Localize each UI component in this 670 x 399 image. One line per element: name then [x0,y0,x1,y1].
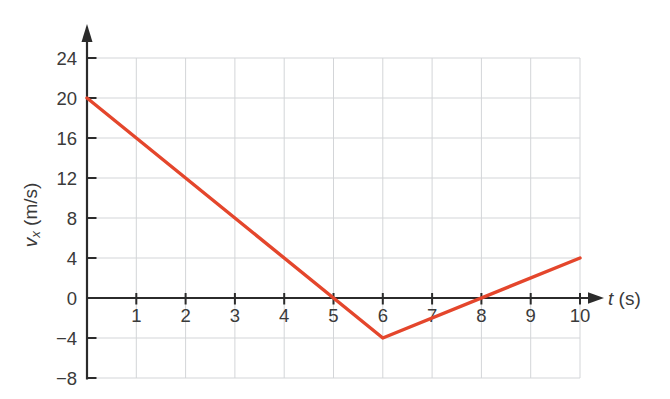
x-axis-title: t (s) [608,289,641,308]
y-axis-arrowhead [82,24,93,42]
x-tick-label: 4 [279,305,289,326]
y-tick-label: 20 [56,88,77,109]
y-axis-variable: v [20,238,41,248]
chart-canvas: 24201612840−4−812345678910 [0,0,670,399]
y-tick-label: 12 [56,168,77,189]
y-tick-label: 4 [67,248,77,269]
x-tick-label: 1 [131,305,141,326]
y-tick-label: 8 [67,208,77,229]
x-axis-arrowhead [588,292,604,304]
y-tick-label: 0 [67,288,77,309]
x-axis-unit: (s) [613,288,640,309]
x-tick-label: 10 [570,305,591,326]
velocity-time-graph: 24201612840−4−812345678910 vx (m/s) t (s… [0,0,670,399]
y-axis-unit: (m/s) [20,183,41,232]
x-tick-label: 8 [476,305,486,326]
x-tick-label: 3 [230,305,240,326]
y-tick-label: −8 [56,368,77,389]
y-tick-label: 24 [56,48,77,69]
y-tick-label: −4 [56,328,77,349]
y-axis-subscript: x [28,231,43,238]
x-tick-label: 9 [526,305,536,326]
x-tick-label: 5 [328,305,338,326]
x-tick-label: 6 [378,305,388,326]
x-tick-label: 2 [180,305,190,326]
y-tick-label: 16 [56,128,77,149]
y-axis-title: vx (m/s) [21,183,40,248]
